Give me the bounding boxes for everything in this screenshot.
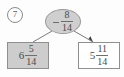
- left-denominator: 14: [25, 57, 37, 67]
- right-answer-box[interactable]: 5 11 14: [78, 42, 120, 69]
- left-whole-number: 6: [19, 50, 25, 61]
- root-denominator: 14: [61, 23, 73, 33]
- left-mixed-number: 6 5 14: [19, 44, 38, 67]
- right-denominator: 14: [96, 57, 108, 67]
- minus-operator-icon: [53, 22, 59, 23]
- root-fraction: 8 14: [61, 10, 73, 33]
- worksheet-diagram: 7 8 14 6 5 14 5 11 14: [0, 0, 124, 77]
- left-fraction: 5 14: [25, 44, 37, 67]
- right-mixed-number: 5 11 14: [90, 44, 109, 67]
- left-numerator: 5: [28, 44, 35, 54]
- right-numerator: 11: [96, 44, 108, 54]
- root-expression: 8 14: [46, 10, 80, 33]
- left-answer-box[interactable]: 6 5 14: [7, 42, 49, 69]
- root-numerator: 8: [64, 10, 71, 20]
- problem-number: 7: [7, 7, 23, 23]
- right-fraction: 11 14: [96, 44, 108, 67]
- root-node-oval: 8 14: [45, 9, 81, 34]
- right-whole-number: 5: [90, 50, 96, 61]
